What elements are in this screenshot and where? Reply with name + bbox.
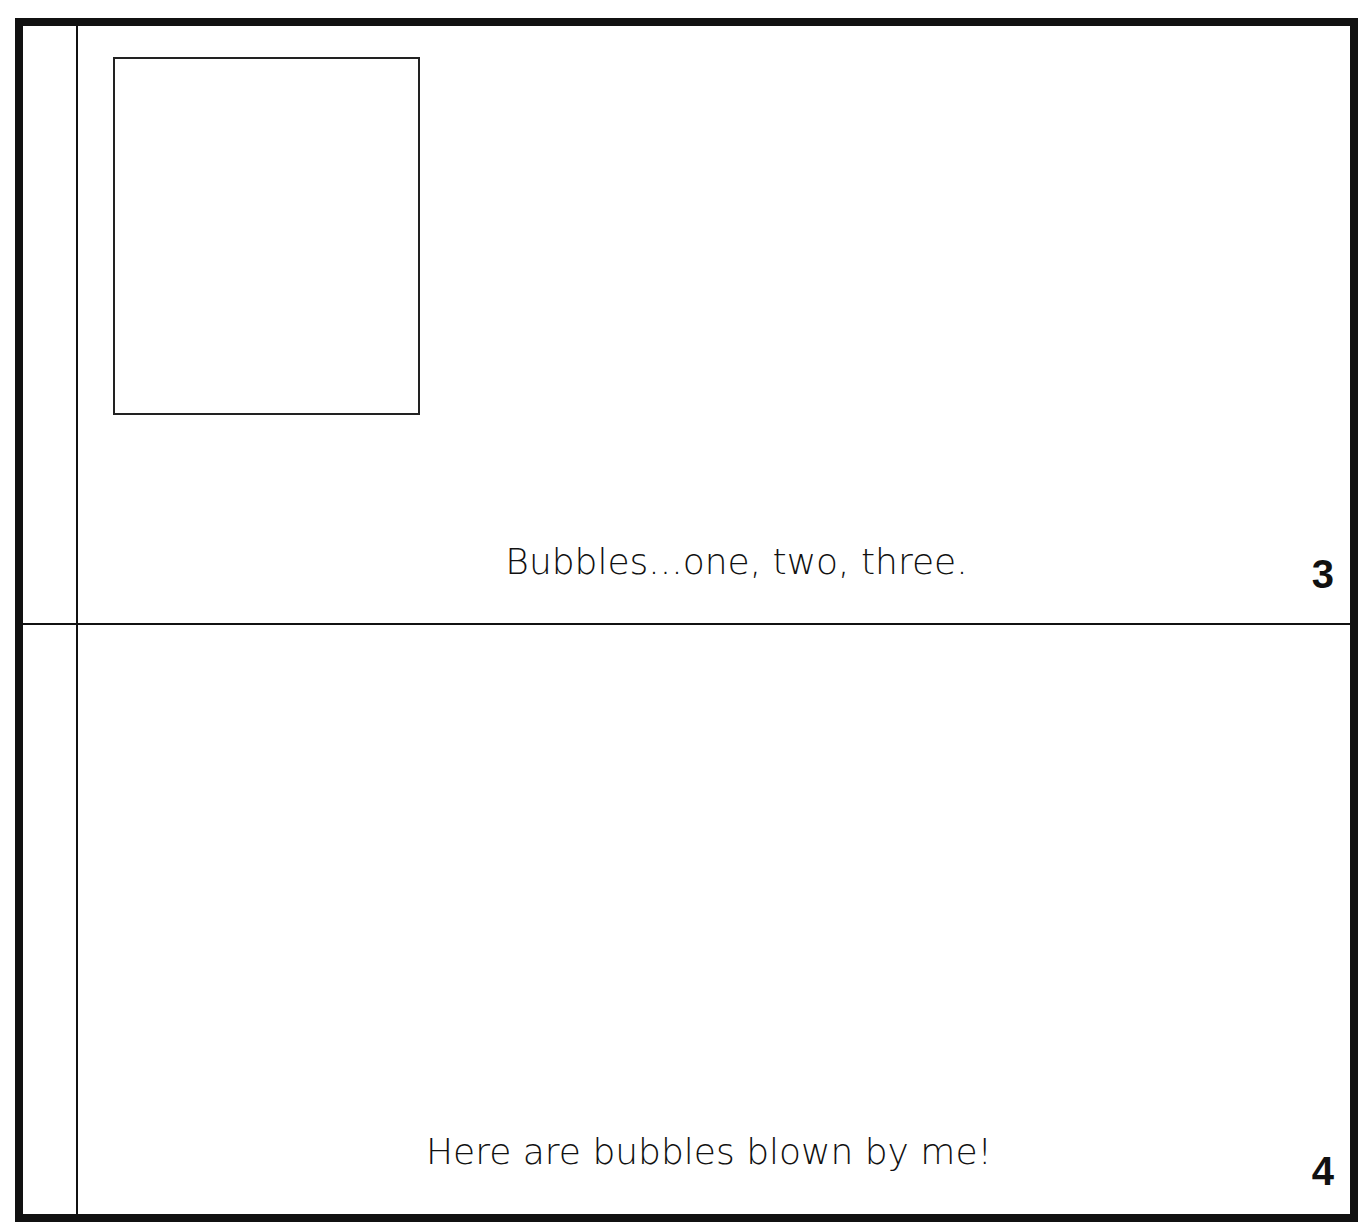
page-number: 3 <box>1312 552 1334 597</box>
page-caption: Bubbles...one, two, three. <box>123 541 1350 582</box>
page-number: 4 <box>1312 1149 1334 1194</box>
picture-box <box>113 57 420 415</box>
page-panel-3: Bubbles...one, two, three. 3 <box>78 26 1350 623</box>
page-panel-4: Here are bubbles blown by me! 4 <box>78 625 1350 1214</box>
book-sheet: Bubbles...one, two, three. 3 Here are bu… <box>15 18 1358 1222</box>
page-caption: Here are bubbles blown by me! <box>68 1131 1350 1172</box>
